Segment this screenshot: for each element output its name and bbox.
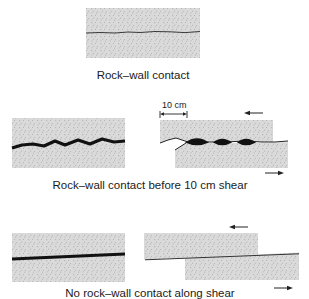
panel-2-rock-block-before <box>12 118 125 168</box>
shear-arrow-left-icon <box>244 111 263 115</box>
upper-block <box>160 120 273 143</box>
lower-block <box>175 142 288 168</box>
panel-1-rock-block <box>86 8 200 58</box>
caption-panel-2: Rock–wall contact before 10 cm shear <box>53 179 248 191</box>
shear-arrow-right-icon <box>265 171 284 175</box>
scale-label: 10 cm <box>162 100 187 110</box>
caption-panel-1: Rock–wall contact <box>97 69 190 81</box>
scale-bar-10cm <box>160 111 187 118</box>
shear-arrow-left-icon <box>229 225 248 229</box>
shear-arrow-right-icon <box>274 286 293 290</box>
caption-panel-3: No rock–wall contact along shear <box>65 287 234 299</box>
panel-2-rock-block-sheared <box>160 120 288 168</box>
panel-3-rock-block-sheared <box>144 233 299 280</box>
panel-3-rock-block-before <box>12 233 125 282</box>
